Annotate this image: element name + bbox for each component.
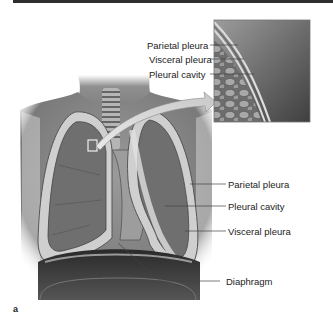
- inset-label-pleural-cavity: Pleural cavity: [149, 69, 206, 80]
- panel-letter: a: [13, 304, 18, 314]
- label-pleural-cavity: Pleural cavity: [228, 201, 285, 212]
- inset-magnified-view: [214, 20, 310, 122]
- label-visceral-pleura: Visceral pleura: [228, 226, 291, 237]
- inset-label-visceral-pleura: Visceral pleura: [149, 54, 212, 65]
- label-diaphragm: Diaphragm: [226, 276, 272, 287]
- inset-label-parietal-pleura: Parietal pleura: [147, 40, 208, 51]
- label-parietal-pleura: Parietal pleura: [228, 179, 289, 190]
- diaphragm: [38, 249, 200, 300]
